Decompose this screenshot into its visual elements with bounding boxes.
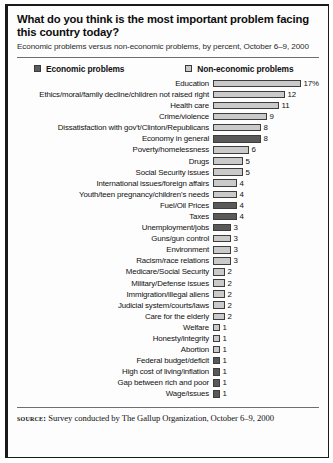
bar-economic [213,202,237,210]
bar-track: 2 [213,267,319,276]
bar-track: 6 [213,145,319,154]
bar-track: 2 [213,290,319,299]
bar-non-economic [213,257,231,265]
bar-track: 4 [213,201,319,210]
bar-value-label: 2 [228,312,232,321]
bar-value-label: 17% [304,79,320,88]
legend-label-economic: Economic problems [46,64,124,74]
chart-row: Taxes4 [17,211,319,222]
bar-value-label: 1 [223,345,227,354]
chart-row: Unemployment/jobs3 [17,222,319,233]
bar-category-label: Social Security issues [17,168,213,177]
chart-row: High cost of living/inflation1 [17,366,319,377]
bar-category-label: Care for the elderly [17,312,213,321]
legend-swatch-non-economic-icon [185,65,192,72]
bar-track: 3 [213,256,319,265]
bar-value-label: 5 [246,168,250,177]
bar-track: 1 [213,345,319,354]
bar-value-label: 4 [240,212,244,221]
bar-economic [213,368,220,376]
bar-non-economic [213,335,220,343]
chart-row: Abortion1 [17,344,319,355]
chart-row: Guns/gun control3 [17,233,319,244]
bar-category-label: Taxes [17,212,213,221]
bar-category-label: Unemployment/jobs [17,223,213,232]
bar-economic [213,390,220,398]
chart-row: Environment3 [17,244,319,255]
chart-row: Gap between rich and poor1 [17,377,319,388]
bar-value-label: 8 [264,123,268,132]
bar-category-label: Fuel/Oil Prices [17,201,213,210]
bar-non-economic [213,324,220,332]
bar-track: 8 [213,123,319,132]
bar-value-label: 2 [228,290,232,299]
figure-container: What do you think is the most important … [0,0,333,463]
bar-economic [213,135,261,143]
chart-row: Youth/teen pregnancy/children's needs4 [17,189,319,200]
figure-frame: What do you think is the most important … [5,4,329,458]
bar-economic [213,357,220,365]
legend-swatch-economic-icon [34,65,41,72]
chart-row: Medicare/Social Security2 [17,266,319,277]
chart-row: Drugs5 [17,155,319,166]
bar-track: 5 [213,168,319,177]
chart-row: Health care11 [17,100,319,111]
bar-category-label: Youth/teen pregnancy/children's needs [17,190,213,199]
bar-track: 12 [213,90,319,99]
bar-category-label: Ethics/moral/family decline/children not… [17,90,213,99]
bar-track: 1 [213,356,319,365]
bar-category-label: Military/Defense issues [17,279,213,288]
bar-category-label: Wage/issues [17,389,213,398]
bar-category-label: High cost of living/inflation [17,367,213,376]
bar-category-label: Crime/violence [17,112,213,121]
bar-value-label: 1 [223,367,227,376]
bar-non-economic [213,102,279,110]
chart-row: Crime/violence9 [17,111,319,122]
bar-track: 4 [213,212,319,221]
chart-legend: Economic problems Non-economic problems [17,64,319,74]
bar-economic [213,224,231,232]
chart-row: Immigration/illegal aliens2 [17,289,319,300]
chart-row: Racism/race relations3 [17,255,319,266]
bar-track: 3 [213,245,319,254]
bar-non-economic [213,268,225,276]
chart-row: Social Security issues5 [17,167,319,178]
bar-track: 1 [213,389,319,398]
bar-economic [213,213,237,221]
chart-row: Fuel/Oil Prices4 [17,200,319,211]
bar-chart-plot: Education17%Ethics/moral/family decline/… [17,78,319,400]
bar-value-label: 2 [228,267,232,276]
bar-track: 4 [213,190,319,199]
bar-non-economic [213,113,267,121]
bar-track: 17% [213,79,319,88]
bar-value-label: 2 [228,279,232,288]
bar-track: 1 [213,367,319,376]
bar-value-label: 1 [223,323,227,332]
bar-value-label: 1 [223,356,227,365]
chart-row: Honesty/integrity1 [17,333,319,344]
bar-track: 1 [213,334,319,343]
bar-value-label: 4 [240,201,244,210]
chart-row: Federal budget/deficit1 [17,355,319,366]
bar-category-label: Drugs [17,157,213,166]
bar-category-label: International issues/foreign affairs [17,179,213,188]
chart-row: Military/Defense issues2 [17,278,319,289]
bar-category-label: Welfare [17,323,213,332]
bar-track: 5 [213,157,319,166]
legend-item-non-economic: Non-economic problems [185,64,293,74]
bar-value-label: 3 [234,234,238,243]
figure-title: What do you think is the most important … [17,13,319,40]
chart-row: Welfare1 [17,322,319,333]
bar-track: 1 [213,378,319,387]
chart-row: Judicial system/courts/laws2 [17,300,319,311]
chart-row: Care for the elderly2 [17,311,319,322]
legend-item-economic: Economic problems [34,64,124,74]
bar-non-economic [213,191,237,199]
bar-category-label: Gap between rich and poor [17,378,213,387]
bar-track: 1 [213,323,319,332]
header-divider [17,57,319,58]
bar-category-label: Guns/gun control [17,234,213,243]
bar-category-label: Honesty/integrity [17,334,213,343]
bar-track: 3 [213,234,319,243]
bar-non-economic [213,124,261,132]
